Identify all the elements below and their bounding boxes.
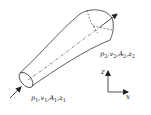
x-axis-label: x: [126, 93, 130, 101]
z-axis-label: z: [100, 68, 105, 76]
coordinate-axes: z x: [100, 68, 130, 101]
inlet-label: p1,v1,A1,z1: [31, 94, 66, 103]
tube-outline: [20, 10, 113, 86]
center-streamline: [28, 27, 100, 80]
streamtube-diagram: z x p2,v2,A2,z2 p1,v1,A1,z1: [0, 0, 151, 115]
inlet-cross-section: [16, 70, 35, 90]
outlet-label: p2,v2,A2,z2: [100, 50, 135, 59]
outlet-flow-arrow: [100, 14, 117, 27]
inlet-flow-arrow: [10, 87, 21, 98]
outlet-cross-section-hidden-2: [93, 26, 112, 30]
outlet-cross-section-hidden: [87, 10, 98, 33]
